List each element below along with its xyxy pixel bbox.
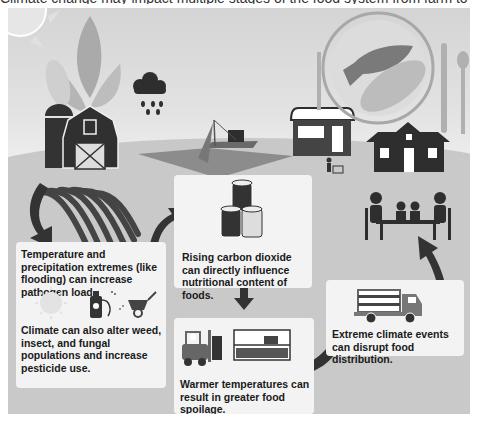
infographic-panel: Temperature and precipitation extremes (…	[8, 8, 470, 414]
corn-plant-icon	[41, 16, 121, 113]
store-icon	[291, 108, 354, 156]
rain-cloud-icon	[133, 72, 166, 115]
corn-rows-icon	[38, 190, 138, 248]
spoilage-box: Warmer temperatures can result in greate…	[174, 318, 314, 414]
family-dining-icon	[365, 192, 451, 240]
pesticide-sprayer-icon	[90, 291, 116, 318]
co2-box: Rising carbon dioxide can directly influ…	[174, 175, 312, 288]
house-icon	[366, 122, 450, 172]
spoilage-icons	[174, 322, 314, 374]
sun-icon	[35, 287, 67, 319]
distribution-text: Extreme climate events can disrupt food …	[332, 328, 464, 366]
distribution-box: Extreme climate events can disrupt food …	[326, 280, 464, 356]
knife-icon	[441, 43, 447, 133]
spoilage-text: Warmer temperatures can result in greate…	[180, 378, 314, 414]
pathogen-box: Temperature and precipitation extremes (…	[16, 242, 166, 388]
canned-food-icon	[174, 177, 312, 247]
delivery-truck-icon	[326, 282, 464, 326]
shopper-cart-icon	[327, 158, 344, 174]
spoon-icon	[457, 51, 469, 134]
co2-text: Rising carbon dioxide can directly influ…	[182, 251, 312, 301]
wheelbarrow-icon	[119, 292, 156, 317]
pesticide-text: Climate can also alter weed, insect, and…	[21, 324, 169, 374]
water-area	[138, 148, 293, 178]
forklift-icon	[182, 330, 222, 366]
figure-caption: Climate change may impact multiple stage…	[0, 0, 470, 4]
pathogen-icons	[16, 286, 166, 320]
sun-icon	[8, 8, 60, 48]
warehouse-shelf-icon	[234, 330, 290, 360]
fork-icon	[317, 52, 321, 110]
